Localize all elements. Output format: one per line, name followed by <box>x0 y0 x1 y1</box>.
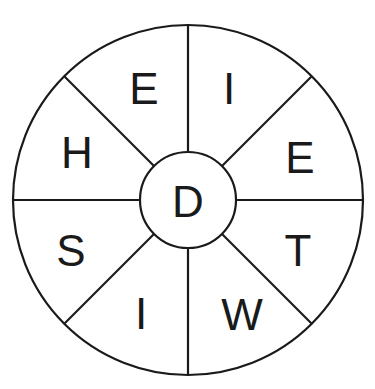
word-wheel: D I E T W I S H E <box>0 0 375 389</box>
sector-letter-right-lower[interactable]: T <box>285 226 312 275</box>
sector-letter-top-right[interactable]: I <box>223 64 235 113</box>
sector-letter-top-left[interactable]: E <box>129 64 158 113</box>
sector-letter-bottom-left[interactable]: I <box>135 289 147 338</box>
sector-letter-right-upper[interactable]: E <box>285 133 314 182</box>
sector-letter-left-upper[interactable]: H <box>61 128 93 177</box>
center-letter[interactable]: D <box>172 177 204 226</box>
sector-letter-left-lower[interactable]: S <box>56 226 85 275</box>
sector-letter-bottom-right[interactable]: W <box>221 290 263 339</box>
